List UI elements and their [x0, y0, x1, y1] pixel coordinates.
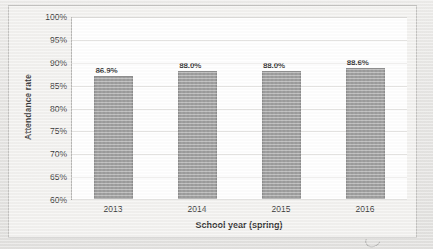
y-axis-tick-label: 60%	[25, 195, 67, 205]
bar-slot: 88.0%	[240, 17, 324, 199]
bar[interactable]: 88.6%	[346, 68, 385, 199]
y-axis-tick-label: 95%	[25, 35, 67, 45]
bar-value-label: 86.9%	[95, 66, 117, 75]
y-axis-tick-label: 75%	[25, 126, 67, 136]
plot-area: 86.9%88.0%88.0%88.6%	[71, 17, 407, 200]
bar-slot: 88.0%	[156, 17, 240, 199]
x-axis-tick-label: 2014	[155, 204, 239, 214]
bar[interactable]: 86.9%	[94, 76, 133, 199]
x-axis-tick-label: 2013	[71, 204, 155, 214]
bar-value-label: 88.0%	[263, 61, 285, 70]
y-axis-tick-labels: 100%95%90%85%80%75%70%65%60%	[25, 17, 67, 200]
scan-smudge-artifact	[363, 231, 383, 249]
x-axis-title: School year (spring)	[71, 220, 407, 230]
x-axis-tick-labels: 2013201420152016	[71, 204, 407, 214]
bar-series: 86.9%88.0%88.0%88.6%	[72, 17, 407, 199]
y-axis-tick-label: 80%	[25, 104, 67, 114]
bar-slot: 86.9%	[72, 17, 156, 199]
y-axis-tick-label: 70%	[25, 149, 67, 159]
scanned-page-background: Attendance rate 100%95%90%85%80%75%70%65…	[0, 0, 433, 249]
gridline	[72, 199, 407, 200]
x-axis-tick-label: 2015	[239, 204, 323, 214]
chart-frame: Attendance rate 100%95%90%85%80%75%70%65…	[8, 5, 417, 238]
bar[interactable]: 88.0%	[262, 71, 301, 199]
bar[interactable]: 88.0%	[178, 71, 217, 199]
x-axis-tick-label: 2016	[323, 204, 407, 214]
y-axis-tick-label: 90%	[25, 58, 67, 68]
y-axis-tick-label: 85%	[25, 81, 67, 91]
y-axis-tick-label: 100%	[25, 12, 67, 22]
bar-value-label: 88.6%	[347, 58, 369, 67]
y-axis-tick-label: 65%	[25, 172, 67, 182]
bar-slot: 88.6%	[323, 17, 407, 199]
bar-value-label: 88.0%	[179, 61, 201, 70]
